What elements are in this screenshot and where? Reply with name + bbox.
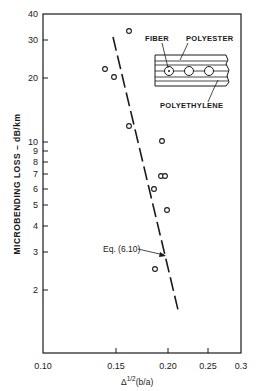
- y-axis-title: MICROBENDING LOSS – dB/km: [12, 114, 22, 255]
- y-tick-4: 4: [33, 221, 38, 231]
- y-axis-ticks: [43, 40, 48, 290]
- data-point: [112, 75, 117, 80]
- y-axis-tick-labels: 40 30 20 10 9 8 7 6 5 4 3 2: [28, 9, 38, 295]
- y-tick-40: 40: [28, 9, 38, 19]
- data-point: [127, 29, 132, 34]
- microbending-loss-chart: 0.10 0.15 0.20 0.25 0.3 40 30 20 10 9 8 …: [0, 0, 257, 391]
- y-tick-30: 30: [28, 35, 38, 45]
- x-tick-0-15: 0.15: [107, 361, 125, 371]
- x-axis-title-sup: 1/2: [127, 375, 136, 382]
- inset-label-fiber: FIBER: [145, 34, 169, 43]
- y-tick-5: 5: [33, 200, 38, 210]
- y-tick-20: 20: [28, 73, 38, 83]
- x-axis-tick-labels: 0.10 0.15 0.20 0.25 0.3: [34, 361, 247, 371]
- inset-label-polyester: POLYESTER: [186, 34, 234, 43]
- data-point: [160, 139, 165, 144]
- data-point: [103, 67, 108, 72]
- y-tick-7: 7: [33, 169, 38, 179]
- data-point: [127, 124, 132, 129]
- eq-6-10-label: Eq. (6.10): [103, 244, 140, 254]
- fiber-circle: [205, 67, 214, 76]
- inset-label-polyethylene: POLYETHYLENE: [160, 101, 223, 110]
- x-axis-ticks: [116, 348, 208, 353]
- y-tick-2: 2: [33, 285, 38, 295]
- x-tick-0-25: 0.25: [199, 361, 217, 371]
- y-tick-9: 9: [33, 146, 38, 156]
- x-tick-0-20: 0.20: [159, 361, 177, 371]
- data-point: [165, 208, 170, 213]
- data-point: [153, 267, 158, 272]
- fiber-circle: [185, 67, 194, 76]
- data-point: [152, 187, 157, 192]
- x-axis-title: Δ1/2(b/a): [121, 375, 153, 387]
- ribbon-cross-section-inset: FIBER POLYESTER POLYETHYLENE: [145, 34, 234, 110]
- x-tick-0-3: 0.3: [235, 361, 248, 371]
- y-tick-8: 8: [33, 157, 38, 167]
- x-axis-title-rest: (b/a): [136, 377, 154, 387]
- y-tick-3: 3: [33, 247, 38, 257]
- x-tick-0-10: 0.10: [34, 361, 52, 371]
- data-point: [163, 174, 168, 179]
- y-tick-6: 6: [33, 184, 38, 194]
